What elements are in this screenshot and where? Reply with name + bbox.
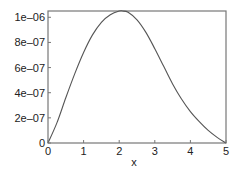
- x-tick-label: 5: [223, 145, 229, 157]
- x-tick-label: 0: [45, 145, 51, 157]
- x-tick-label: 2: [116, 145, 122, 157]
- x-tick-label: 1: [81, 145, 87, 157]
- x-axis-label: x: [131, 156, 137, 168]
- series-line: [48, 11, 226, 143]
- y-tick-label: 4e–07: [14, 87, 45, 99]
- x-tick-label: 3: [152, 145, 158, 157]
- y-axis-ticks: 02e–074e–076e–078e–071e–06: [14, 11, 51, 149]
- y-tick-label: 0: [39, 137, 45, 149]
- plot-frame: [48, 11, 226, 143]
- x-tick-label: 4: [187, 145, 193, 157]
- line-chart: 012345 02e–074e–076e–078e–071e–06 x: [0, 0, 236, 171]
- data-curve: [48, 11, 226, 143]
- y-tick-label: 6e–07: [14, 62, 45, 74]
- y-tick-label: 8e–07: [14, 36, 45, 48]
- y-tick-label: 1e–06: [14, 11, 45, 23]
- plot-border: [48, 11, 226, 143]
- y-tick-label: 2e–07: [14, 112, 45, 124]
